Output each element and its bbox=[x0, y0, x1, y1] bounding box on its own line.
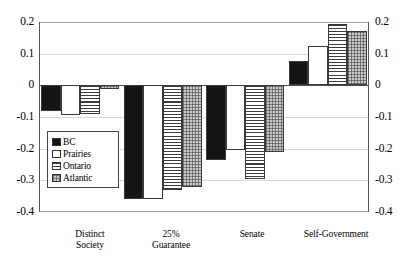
bar-distinct-society-prairies bbox=[61, 85, 81, 115]
legend-swatch-atlantic bbox=[52, 174, 61, 182]
x-label-senate: Senate bbox=[216, 229, 288, 240]
y-tick-left-3: -0.1 bbox=[17, 111, 34, 123]
y-tick-right-3: -0.1 bbox=[375, 111, 392, 123]
bar-25-guarantee-prairies bbox=[143, 85, 163, 199]
bar-distinct-society-ontario bbox=[80, 85, 100, 114]
y-tick-left-4: -0.2 bbox=[17, 143, 34, 155]
legend-label-atlantic: Atlantic bbox=[63, 173, 92, 183]
y-tick-left-2: 0 bbox=[28, 79, 34, 91]
y-tick-right-4: -0.2 bbox=[375, 143, 392, 155]
legend-item-prairies: Prairies bbox=[52, 148, 114, 159]
legend-swatch-bc bbox=[52, 138, 61, 146]
bar-self-government-bc bbox=[289, 61, 309, 86]
bar-self-government-atlantic bbox=[347, 31, 367, 85]
legend-label-bc: BC bbox=[63, 137, 75, 147]
y-tick-left-1: 0.1 bbox=[20, 48, 34, 60]
legend-item-bc: BC bbox=[52, 136, 114, 147]
bar-senate-atlantic bbox=[265, 85, 285, 152]
x-label-distinct-society: Distinct Society bbox=[54, 229, 126, 251]
bar-self-government-prairies bbox=[308, 46, 328, 85]
legend-item-ontario: Ontario bbox=[52, 160, 114, 171]
legend-item-atlantic: Atlantic bbox=[52, 172, 114, 183]
bar-senate-prairies bbox=[226, 85, 246, 150]
legend-label-prairies: Prairies bbox=[63, 149, 91, 159]
legend-label-ontario: Ontario bbox=[63, 161, 91, 171]
bar-chart: 0.2 0.1 0 -0.1 -0.2 -0.3 -0.4 0.2 0.1 0 … bbox=[0, 0, 408, 259]
y-tick-left-0: 0.2 bbox=[20, 16, 34, 28]
bar-senate-ontario bbox=[245, 85, 265, 178]
bar-senate-bc bbox=[206, 85, 226, 159]
bar-25-guarantee-atlantic bbox=[182, 85, 202, 186]
bar-self-government-ontario bbox=[328, 24, 348, 85]
legend: BC Prairies Ontario Atlantic bbox=[47, 131, 119, 188]
y-tick-right-5: -0.3 bbox=[375, 174, 392, 186]
legend-swatch-prairies bbox=[52, 150, 61, 158]
bar-25-guarantee-bc bbox=[124, 85, 144, 199]
x-label-25-guarantee: 25% Guarantee bbox=[135, 229, 207, 251]
bar-25-guarantee-ontario bbox=[163, 85, 183, 190]
x-label-self-government: Self-Government bbox=[288, 229, 384, 240]
y-tick-right-6: -0.4 bbox=[375, 206, 392, 218]
y-tick-left-5: -0.3 bbox=[17, 174, 34, 186]
y-tick-left-6: -0.4 bbox=[17, 206, 34, 218]
y-tick-right-1: 0.1 bbox=[375, 48, 389, 60]
y-tick-right-2: 0 bbox=[375, 79, 381, 91]
legend-swatch-ontario bbox=[52, 162, 61, 170]
y-tick-right-0: 0.2 bbox=[375, 16, 389, 28]
bar-distinct-society-bc bbox=[41, 85, 61, 110]
bar-distinct-society-atlantic bbox=[100, 85, 120, 89]
